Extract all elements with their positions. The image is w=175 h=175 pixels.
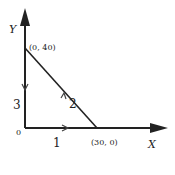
path-2-label: 2 bbox=[69, 97, 77, 111]
y-axis-label: Y bbox=[9, 23, 18, 36]
x-axis-arrow-icon bbox=[150, 123, 168, 133]
path-2-line bbox=[25, 48, 97, 128]
y-axis-arrow-icon bbox=[20, 8, 30, 26]
path-1-label: 1 bbox=[53, 136, 61, 150]
point-label-30-0: (30, 0) bbox=[91, 138, 118, 147]
origin-label: 0 bbox=[16, 128, 21, 137]
cycle-diagram: Y X 0 (0, 40) (30, 0) 1 2 3 bbox=[0, 0, 175, 175]
x-axis-label: X bbox=[147, 138, 157, 151]
point-label-0-40: (0, 40) bbox=[29, 43, 56, 52]
path-3-label: 3 bbox=[13, 98, 21, 112]
